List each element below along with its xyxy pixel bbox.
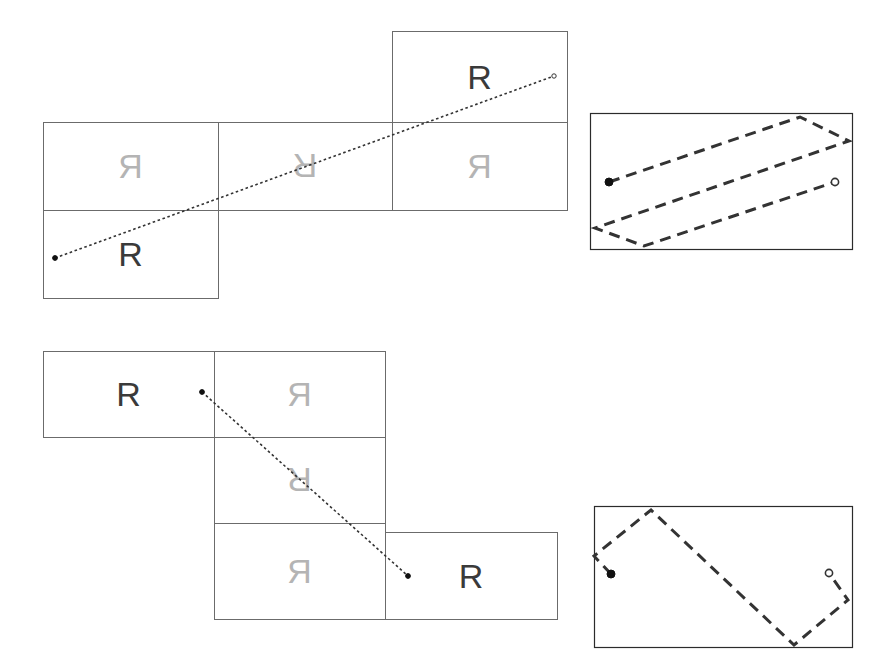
panel-frame	[595, 507, 853, 648]
net-cell-tl-e: R	[393, 32, 568, 123]
cell-glyph-bl-d: R	[287, 552, 312, 590]
folded-path	[595, 117, 849, 246]
panel-bottom-right-folded-path	[594, 507, 853, 648]
start-marker-filled-dot-icon	[53, 256, 58, 261]
start-marker-filled-dot-icon	[605, 178, 613, 186]
cell-glyph-tl-b: R	[118, 235, 143, 273]
figure-svg: RRRRRRRRRR	[0, 0, 886, 660]
cell-glyph-bl-b: R	[287, 375, 312, 413]
cell-glyph-tl-e: R	[467, 58, 492, 96]
start-marker-filled-dot-icon	[607, 570, 615, 578]
cell-glyph-bl-a: R	[116, 375, 141, 413]
end-marker-open-circle-icon	[825, 569, 832, 576]
cell-glyph-bl-e: R	[459, 557, 484, 595]
panel-bottom-left-unfolded-net: RRRRR	[44, 352, 558, 620]
panel-top-left-unfolded-net: RRRRR	[44, 32, 568, 299]
net-cell-bl-b: R	[215, 352, 386, 438]
cell-glyph-tl-d: R	[467, 147, 492, 185]
start-marker-filled-dot-icon	[200, 390, 205, 395]
end-marker-open-circle-icon	[552, 74, 556, 78]
panel-frame	[591, 114, 853, 250]
net-cell-bl-a: R	[44, 352, 215, 438]
end-marker-filled-dot-icon	[406, 574, 411, 579]
net-cell-tl-a: R	[44, 123, 219, 211]
cell-glyph-tl-a: R	[118, 147, 143, 185]
net-cell-tl-d: R	[393, 123, 568, 211]
panel-top-right-folded-path	[591, 114, 853, 250]
figure-canvas: RRRRRRRRRR	[0, 0, 886, 660]
net-cell-tl-b: R	[44, 211, 219, 299]
folded-path	[594, 510, 848, 645]
net-cell-bl-e: R	[386, 533, 558, 620]
end-marker-open-circle-icon	[831, 178, 838, 185]
net-cell-bl-d: R	[215, 524, 386, 620]
